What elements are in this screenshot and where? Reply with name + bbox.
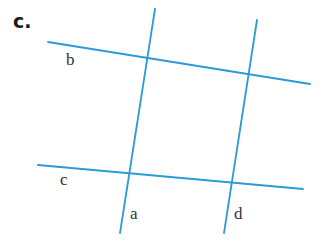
label-d: d bbox=[234, 204, 243, 224]
line-d bbox=[224, 20, 257, 233]
line-a bbox=[120, 9, 155, 233]
label-b: b bbox=[66, 50, 75, 70]
line-diagram bbox=[0, 0, 324, 249]
label-a: a bbox=[130, 204, 138, 224]
label-c: c bbox=[60, 170, 68, 190]
line-c bbox=[38, 165, 303, 189]
line-b bbox=[48, 42, 310, 84]
